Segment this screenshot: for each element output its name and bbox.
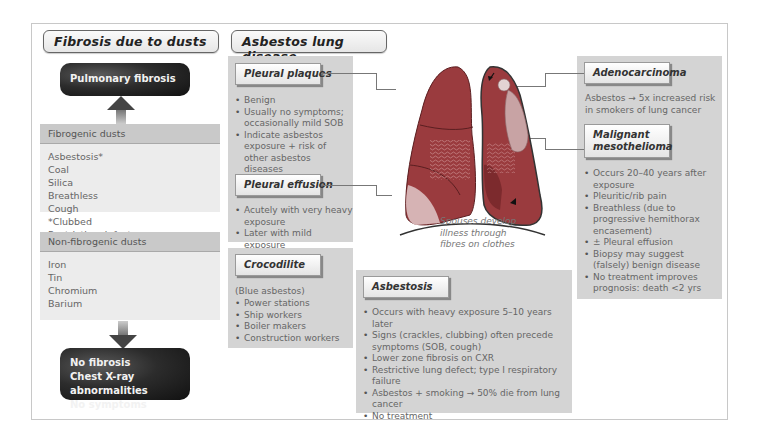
non-fibrogenic-dusts-header: Non-fibrogenic dusts xyxy=(40,232,220,252)
mesothelioma-list: Occurs 20–40 years after exposure Pleuri… xyxy=(584,168,720,295)
list-item: Pleuritic/rib pain xyxy=(584,191,720,203)
pleural-effusion-label: Pleural effusion xyxy=(235,174,321,196)
list-item: Signs (crackles, clubbing) often precede… xyxy=(363,330,571,353)
asbestosis-label: Asbestosis xyxy=(363,276,449,298)
down-arrow-icon xyxy=(108,321,138,349)
pleural-plaques-list: Benign Usually no symptoms; occasionally… xyxy=(235,95,350,176)
adenocarcinoma-label: Adenocarcinoma xyxy=(584,62,670,84)
list-item: Occurs 20–40 years after exposure xyxy=(584,168,720,191)
mesothelioma-label: Malignant mesothelioma xyxy=(584,124,670,158)
left-heading: Fibrosis due to dusts xyxy=(43,30,219,53)
list-item: Asbestos + smoking → 50% die from lung c… xyxy=(363,388,571,411)
mesothelioma-label-line: mesothelioma xyxy=(593,141,661,153)
up-arrow-icon xyxy=(106,96,136,124)
dust-item: Chromium xyxy=(48,284,212,297)
list-item: ± Pleural effusion xyxy=(584,237,720,249)
list-item: Restrictive lung defect; type I respirat… xyxy=(363,365,571,388)
list-item: Power stations xyxy=(235,298,353,310)
adenocarcinoma-text: Asbestos → 5x increased risk in smokers … xyxy=(585,93,720,116)
outcome-box: No fibrosis Chest X-ray abnormalities No… xyxy=(60,348,190,400)
outcome-line: No symptoms xyxy=(70,398,180,412)
list-item: Boiler makers xyxy=(235,321,353,333)
pleural-effusion-list: Acutely with very heavy exposure Later w… xyxy=(235,205,353,251)
list-item: No treatment improves prognosis: death <… xyxy=(584,272,720,295)
dust-item: Asbestosis* xyxy=(48,150,102,163)
list-item: Occurs with heavy exposure 5–10 years la… xyxy=(363,307,571,330)
spouse-note-line: Spouses develop xyxy=(440,216,516,228)
feature-item: *Clubbed xyxy=(48,215,167,228)
non-fibrogenic-dusts-body: Iron Tin Chromium Barium xyxy=(40,252,220,320)
feature-item: Breathless xyxy=(48,189,167,202)
fibrogenic-dusts-header: Fibrogenic dusts xyxy=(40,124,220,144)
crocodilite-list: Power stations Ship workers Boiler maker… xyxy=(235,298,353,344)
list-item: Biopsy may suggest (falsely) benign dise… xyxy=(584,249,720,272)
spouse-note: Spouses develop illness through fibres o… xyxy=(440,216,516,251)
pleural-plaques-label: Pleural plaques xyxy=(235,63,321,85)
crocodilite-intro: (Blue asbestos) xyxy=(235,286,305,298)
pulmonary-fibrosis-box: Pulmonary fibrosis xyxy=(60,63,190,96)
list-item: No treatment xyxy=(363,411,571,423)
outcome-line: Chest X-ray abnormalities xyxy=(70,370,180,398)
dust-item: Coal xyxy=(48,163,102,176)
right-heading: Asbestos lung disease xyxy=(231,30,387,53)
spouse-note-line: illness through xyxy=(440,228,516,240)
asbestosis-list: Occurs with heavy exposure 5–10 years la… xyxy=(363,307,571,422)
list-item: Acutely with very heavy exposure xyxy=(235,205,353,228)
list-item: Usually no symptoms; occasionally mild S… xyxy=(235,107,350,130)
list-item: Ship workers xyxy=(235,310,353,322)
dust-item: Barium xyxy=(48,297,212,310)
connector-line xyxy=(321,73,377,89)
dust-item: Iron xyxy=(48,258,212,271)
dust-item: Tin xyxy=(48,271,212,284)
list-item: Construction workers xyxy=(235,333,353,345)
list-item: Indicate asbestos exposure + risk of oth… xyxy=(235,130,350,176)
connector-line xyxy=(321,185,377,196)
feature-item: Cough xyxy=(48,202,167,215)
list-item: Breathless (due to progressive hemithora… xyxy=(584,203,720,238)
list-item: Benign xyxy=(235,95,350,107)
fibrogenic-dusts-body: Asbestosis* Coal Silica Breathless Cough… xyxy=(40,144,220,212)
crocodilite-label: Crocodilite xyxy=(235,254,321,276)
spouse-note-line: fibres on clothes xyxy=(440,239,516,251)
dust-item: Silica xyxy=(48,176,102,189)
outcome-line: No fibrosis xyxy=(70,356,180,370)
list-item: Lower zone fibrosis on CXR xyxy=(363,353,571,365)
mesothelioma-label-line: Malignant xyxy=(593,129,661,141)
